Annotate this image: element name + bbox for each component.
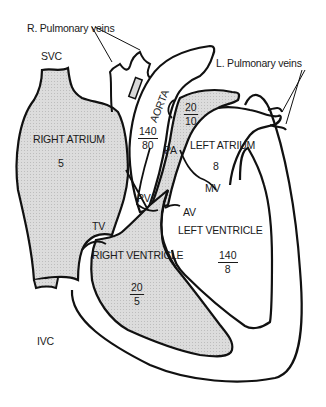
label-pv: PV [137,193,151,204]
lv-diastolic: 8 [218,263,238,275]
label-left-atrium: LEFT ATRIUM [190,140,255,151]
label-left-ventricle: LEFT VENTRICLE [178,225,263,236]
label-r-pulmonary-veins: R. Pulmonary veins [27,23,114,34]
aorta-systolic: 140 [138,126,158,139]
pressure-left-ventricle: 140 8 [218,250,238,274]
pa-diastolic: 10 [184,115,198,127]
pa-systolic: 20 [184,102,198,115]
label-right-atrium: RIGHT ATRIUM [33,134,105,145]
l-pulmonary-leader [282,70,305,124]
pressure-right-atrium: 5 [58,158,64,169]
label-ivc: IVC [37,336,54,347]
rv-diastolic: 5 [130,295,144,307]
label-right-ventricle: RIGHT VENTRICLE [92,250,183,261]
rv-systolic: 20 [130,282,144,295]
label-tv: TV [92,221,105,232]
pressure-left-atrium: 8 [213,161,219,172]
label-mv: MV [205,183,220,194]
label-pa: PA [164,145,177,156]
label-l-pulmonary-veins: L. Pulmonary veins [216,58,302,69]
lv-systolic: 140 [218,250,238,263]
label-av: AV [183,207,196,218]
pressure-aorta: 140 80 [138,126,158,150]
label-svc: SVC [41,51,62,62]
aorta-diastolic: 80 [138,139,158,151]
pressure-pulmonary-artery: 20 10 [184,102,198,126]
pressure-right-ventricle: 20 5 [130,282,144,306]
